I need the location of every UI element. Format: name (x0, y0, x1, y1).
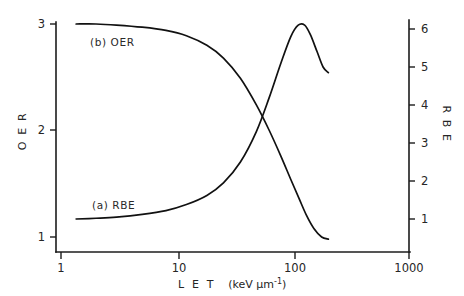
x-axis-units-exponent: -1 (274, 277, 282, 286)
x-tick-label-100: 100 (284, 261, 306, 275)
right-tick-label-5: 5 (421, 60, 428, 74)
right-tick-label-4: 4 (421, 98, 428, 112)
x-tick-label-10: 10 (172, 261, 187, 275)
right-tick-label-2: 2 (421, 174, 428, 188)
x-axis-title-name: L E T (178, 278, 216, 291)
curve-rbe (76, 24, 328, 219)
left-tick-label-3: 3 (38, 17, 45, 31)
right-tick-label-3: 3 (421, 136, 428, 150)
left-tick-label-1: 1 (38, 230, 45, 244)
annotation-oer-label: (b) OER (90, 36, 135, 48)
x-tick-label-1000: 1000 (394, 261, 423, 275)
figure-container: 3 2 1 O E R 6 5 4 3 2 1 R B E 1 (0, 0, 464, 296)
svg-text:L E T (keV μm-1): L E T (keV μm-1) (178, 277, 286, 291)
x-tick-label-1: 1 (57, 261, 64, 275)
right-tick-label-6: 6 (421, 22, 428, 36)
left-axis-ticks: 3 2 1 (38, 17, 56, 244)
x-axis-units-open: (keV μm (228, 278, 274, 291)
left-tick-label-2: 2 (38, 123, 45, 137)
x-axis-title: L E T (keV μm-1) (178, 277, 286, 291)
x-axis-ticks: 1 10 100 1000 (57, 252, 423, 275)
left-axis-title: O E R (16, 112, 29, 150)
chart-canvas: 3 2 1 O E R 6 5 4 3 2 1 R B E 1 (0, 0, 464, 296)
right-axis-title: R B E (440, 105, 453, 142)
x-axis-units-close: ) (282, 278, 286, 291)
annotation-rbe-label: (a) RBE (92, 199, 135, 211)
right-axis-ticks: 6 5 4 3 2 1 (409, 22, 428, 226)
right-tick-label-1: 1 (421, 212, 428, 226)
